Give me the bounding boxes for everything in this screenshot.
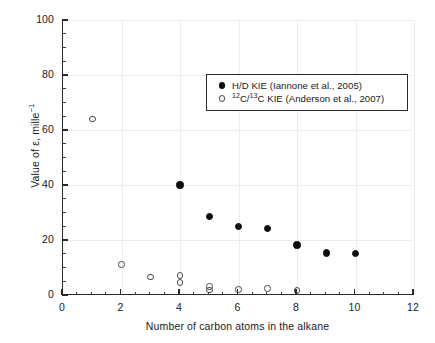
gridline-horizontal	[63, 240, 413, 241]
x-tick-minor	[252, 292, 253, 296]
legend-item-label: 12C/13C KIE (Anderson et al., 2007)	[232, 92, 384, 104]
y-tick-minor	[62, 171, 66, 172]
y-tick-label: 80	[20, 68, 54, 80]
x-tick-minor	[149, 292, 150, 296]
x-tick-minor	[135, 292, 136, 296]
y-tick-minor	[62, 281, 66, 282]
open-circle-icon	[212, 95, 232, 101]
legend-item-c12-c13-kie: 12C/13C KIE (Anderson et al., 2007)	[212, 92, 402, 105]
x-tick-minor	[76, 292, 77, 296]
legend-mid-text: C/	[240, 94, 250, 105]
x-tick-label: 2	[106, 301, 136, 313]
data-point-filled-circle	[293, 241, 300, 248]
y-tick-major	[62, 19, 68, 20]
x-tick-minor	[91, 292, 92, 296]
chart-legend: H/D KIE (Iannone et al., 2005) 12C/13C K…	[206, 74, 408, 111]
y-tick-minor	[62, 61, 66, 62]
y-tick-minor	[62, 253, 66, 254]
y-tick-major	[62, 184, 68, 185]
y-tick-label: 40	[20, 178, 54, 190]
x-tick-major	[120, 289, 121, 295]
gridline-horizontal	[63, 20, 413, 21]
x-tick-minor	[383, 292, 384, 296]
data-point-filled-circle	[264, 225, 271, 232]
y-tick-major	[62, 74, 68, 75]
x-tick-label: 4	[164, 301, 194, 313]
y-tick-minor	[62, 88, 66, 89]
y-axis-title: Value of ε, mille−1	[27, 26, 41, 266]
x-tick-minor	[281, 292, 282, 296]
x-tick-label: 10	[340, 301, 370, 313]
legend-item-hd-kie: H/D KIE (Iannone et al., 2005)	[212, 79, 402, 92]
legend-superscript-12: 12	[232, 92, 240, 99]
plot-area	[62, 20, 413, 295]
data-point-open-circle	[89, 116, 96, 123]
y-tick-minor	[62, 267, 66, 268]
y-tick-label: 0	[20, 288, 54, 300]
filled-circle-icon	[212, 82, 232, 89]
y-tick-minor	[62, 157, 66, 158]
y-tick-major	[62, 294, 68, 295]
legend-tail-text: C KIE (Anderson et al., 2007)	[257, 94, 384, 105]
y-tick-minor	[62, 116, 66, 117]
data-point-open-circle	[177, 272, 184, 279]
y-tick-label: 60	[20, 123, 54, 135]
x-tick-major	[295, 289, 296, 295]
y-tick-major	[62, 129, 68, 130]
y-tick-label: 100	[20, 13, 54, 25]
y-tick-label: 20	[20, 233, 54, 245]
x-tick-minor	[310, 292, 311, 296]
data-point-open-circle	[177, 279, 184, 286]
y-tick-minor	[62, 212, 66, 213]
data-point-open-circle	[118, 261, 125, 268]
x-tick-minor	[369, 292, 370, 296]
y-tick-major	[62, 239, 68, 240]
x-tick-minor	[222, 292, 223, 296]
x-tick-minor	[208, 292, 209, 296]
y-tick-minor	[62, 33, 66, 34]
y-axis-title-superscript: −1	[27, 104, 36, 113]
gridline-vertical	[239, 20, 240, 294]
x-tick-label: 12	[398, 301, 428, 313]
gridline-horizontal	[63, 130, 413, 131]
x-axis-title: Number of carbon atoms in the alkane	[62, 320, 413, 332]
x-tick-label: 8	[281, 301, 311, 313]
y-tick-minor	[62, 143, 66, 144]
y-tick-minor	[62, 226, 66, 227]
x-tick-label: 0	[47, 301, 77, 313]
gridline-horizontal	[63, 185, 413, 186]
data-point-filled-circle	[206, 213, 213, 220]
data-point-filled-circle	[235, 223, 242, 230]
gridline-vertical	[180, 20, 181, 294]
x-tick-minor	[325, 292, 326, 296]
x-tick-minor	[193, 292, 194, 296]
x-tick-label: 6	[223, 301, 253, 313]
legend-item-label: H/D KIE (Iannone et al., 2005)	[232, 80, 362, 91]
x-tick-major	[237, 289, 238, 295]
data-point-filled-circle	[352, 250, 359, 257]
y-tick-minor	[62, 198, 66, 199]
data-point-open-circle	[147, 274, 154, 281]
x-tick-minor	[105, 292, 106, 296]
gridline-vertical	[297, 20, 298, 294]
gridline-vertical	[122, 20, 123, 294]
data-point-filled-circle	[176, 181, 183, 188]
x-tick-major	[354, 289, 355, 295]
x-tick-major	[412, 289, 413, 295]
x-tick-minor	[164, 292, 165, 296]
y-tick-minor	[62, 47, 66, 48]
y-tick-minor	[62, 102, 66, 103]
x-tick-minor	[266, 292, 267, 296]
x-tick-minor	[398, 292, 399, 296]
scatter-chart-figure: Value of ε, mille−1 Number of carbon ato…	[0, 0, 435, 343]
data-point-filled-circle	[323, 249, 330, 256]
x-tick-minor	[339, 292, 340, 296]
gridline-vertical	[414, 20, 415, 294]
x-tick-major	[178, 289, 179, 295]
